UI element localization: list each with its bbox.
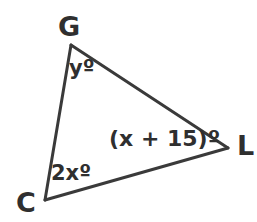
vertex-label-G: G <box>58 13 80 40</box>
geometry-figure-canvas: G C L yº 2xº (x + 15)º <box>0 0 257 222</box>
vertex-label-L: L <box>237 132 254 159</box>
angle-label-at-L: (x + 15)º <box>109 128 220 150</box>
angle-label-at-C: 2xº <box>51 163 91 184</box>
triangle-drawing <box>0 0 257 222</box>
vertex-label-C: C <box>16 189 36 216</box>
angle-label-at-G: yº <box>69 58 95 79</box>
